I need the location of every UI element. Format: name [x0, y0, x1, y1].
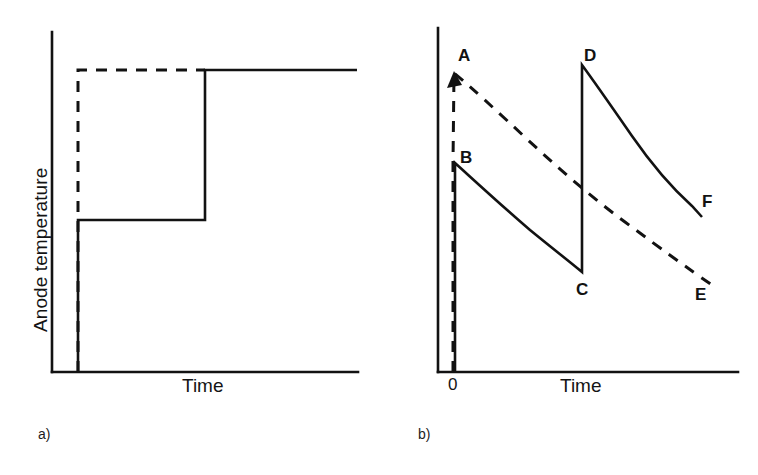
chart-a-plot: [0, 0, 380, 475]
chart-b-point-label-d: D: [584, 46, 596, 66]
chart-panel-b: Anode temperature Time 0 A B C D E F b): [380, 0, 758, 475]
chart-b-point-label-f: F: [702, 192, 712, 212]
chart-panel-a: Anode temperature Time a): [0, 0, 380, 475]
figure-container: Anode temperature Time a) Anode temperat…: [0, 0, 758, 475]
chart-b-x-axis-label: Time: [560, 375, 602, 397]
chart-b-panel-caption: b): [418, 426, 430, 442]
chart-a-series-solid-step: [78, 70, 357, 372]
chart-b-point-label-c: C: [576, 280, 588, 300]
chart-b-origin-label: 0: [448, 375, 457, 395]
chart-b-point-label-e: E: [695, 285, 706, 305]
chart-b-series-solid-exposure: [455, 65, 702, 372]
chart-b-point-label-a: A: [458, 46, 470, 66]
chart-b-plot: [380, 0, 758, 475]
chart-a-y-axis-label: Anode temperature: [30, 168, 52, 332]
chart-a-x-axis-label: Time: [182, 375, 224, 397]
chart-a-panel-caption: a): [38, 426, 50, 442]
chart-b-point-label-b: B: [460, 148, 472, 168]
